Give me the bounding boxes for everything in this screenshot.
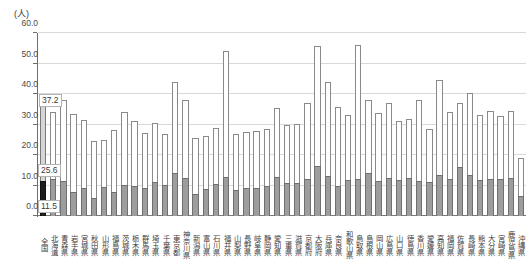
bar-segment-lower (131, 186, 137, 217)
x-axis-label: 山口県 (395, 218, 403, 270)
bar-column (426, 129, 432, 216)
x-axis-label: 愛知県 (273, 218, 281, 270)
bar-segment-upper (365, 100, 371, 174)
x-axis-label: 福岡県 (446, 218, 454, 270)
bar-segment-lower (253, 188, 259, 216)
bar-segment-upper (182, 100, 188, 178)
bar-segment-upper (274, 108, 280, 177)
x-axis-label: 栃木県 (131, 218, 139, 270)
bar-column (365, 100, 371, 217)
x-axis-label: 熊本県 (476, 218, 484, 270)
bar-column (243, 132, 249, 216)
bar-segment-lower (325, 176, 331, 216)
y-tick-label: 10.0 (6, 171, 38, 181)
bar-segment-lower (304, 179, 310, 216)
bar-segment-lower (426, 182, 432, 216)
bar-segment-lower (355, 179, 361, 216)
bar-column (172, 82, 178, 217)
bar-column (213, 128, 219, 216)
bar-segment-lower (101, 187, 107, 216)
bar-segment-upper (477, 115, 483, 180)
bar-segment-upper (375, 113, 381, 182)
bar-column (111, 130, 117, 216)
bar-segment-lower (467, 175, 473, 216)
x-axis-label: 群馬県 (141, 218, 149, 270)
x-axis-label: 石川県 (212, 218, 220, 270)
x-axis-label: 福島県 (110, 218, 118, 270)
y-tick-label: 0.0 (6, 201, 38, 211)
bar-segment-lower (70, 192, 76, 216)
y-tick-mark (33, 185, 37, 186)
bar-column (416, 100, 422, 216)
x-axis-label: 鳥取県 (354, 218, 362, 270)
bar-segment-lower (497, 179, 503, 216)
bar-column (253, 131, 259, 216)
x-axis-label: 富山県 (202, 218, 210, 270)
bar-column (91, 141, 97, 216)
bar-column (345, 115, 351, 216)
bar-segment-lower (375, 181, 381, 216)
bar-column (233, 134, 239, 216)
y-axis-ticks: 0.010.020.030.040.050.060.0 (0, 33, 38, 216)
bar-segment-upper (518, 158, 524, 196)
bar-segment-upper (386, 103, 392, 178)
x-axis-label: 山梨県 (232, 218, 240, 270)
bar-segment-lower (284, 183, 290, 216)
x-axis-label: 愛媛県 (425, 218, 433, 270)
plot-area: 37.225.611.5 (38, 33, 526, 216)
bar-segment-upper (396, 121, 402, 180)
bar-segment-lower (447, 179, 453, 216)
bar-segment-upper (426, 129, 432, 181)
bar-segment-lower (203, 189, 209, 216)
bar-segment-lower (406, 178, 412, 216)
bar-segment-lower (314, 166, 320, 216)
bar-segment-upper (233, 134, 239, 190)
bar-column (447, 112, 453, 216)
bar-segment-lower (223, 177, 229, 216)
bar-segment-lower (274, 177, 280, 216)
y-tick-mark (33, 154, 37, 155)
x-axis-label: 兵庫県 (324, 218, 332, 270)
x-axis-label: 高知県 (436, 218, 444, 270)
bar-column (70, 114, 76, 216)
bar-column (396, 121, 402, 216)
bar-segment-lower (111, 192, 117, 216)
y-tick-mark (33, 124, 37, 125)
x-axis-label: 三重県 (283, 218, 291, 270)
bar-segment-lower (142, 188, 148, 216)
bar-segment-lower (477, 180, 483, 216)
bar-segment-upper (152, 123, 158, 182)
bar-segment-upper (223, 51, 229, 177)
bar-segment-lower (152, 182, 158, 216)
bar-segment-lower (213, 184, 219, 216)
bar-column (386, 103, 392, 216)
bar-segment-lower (365, 173, 371, 216)
bar-segment-upper (457, 103, 463, 167)
bar-segment-lower (264, 186, 270, 217)
bar-segment-lower (416, 181, 422, 216)
bar-column (203, 136, 209, 216)
y-tick-label: 30.0 (6, 110, 38, 120)
y-tick-label: 40.0 (6, 79, 38, 89)
x-axis-label: 沖縄県 (517, 218, 525, 270)
bar-column (508, 111, 514, 216)
bar-column (131, 121, 137, 216)
bar-column (274, 108, 280, 216)
bar-column (142, 133, 148, 216)
bar-segment-upper (355, 45, 361, 179)
bar-segment-upper (304, 103, 310, 179)
bar-segment-upper (253, 131, 259, 188)
bar-segment-lower (81, 188, 87, 216)
bar-segment-upper (172, 82, 178, 173)
bar-column (487, 111, 493, 216)
bar-segment-upper (81, 120, 87, 189)
bar-series (38, 33, 526, 216)
x-axis-label: 佐賀県 (456, 218, 464, 270)
x-axis-label: 千葉県 (161, 218, 169, 270)
bar-segment-lower (294, 183, 300, 216)
bar-segment-upper (487, 111, 493, 179)
bar-segment-upper (467, 93, 473, 175)
x-axis-label: 岡山県 (375, 218, 383, 270)
bar-segment-upper (335, 107, 341, 185)
bar-segment-lower (91, 198, 97, 216)
